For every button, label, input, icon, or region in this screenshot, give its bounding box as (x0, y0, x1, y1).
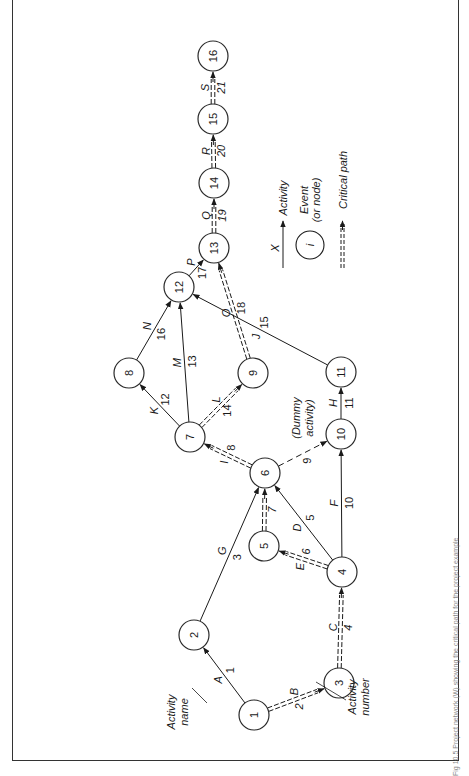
event-node-11: 11 (326, 357, 356, 387)
svg-text:(Dummy: (Dummy (290, 396, 302, 439)
event-number: 6 (259, 470, 271, 476)
activity-number-label: 14 (221, 404, 233, 416)
event-node-9: 9 (238, 358, 268, 388)
event-number: 5 (258, 543, 270, 549)
svg-text:number: number (359, 677, 371, 716)
activity-name-label: F (328, 498, 340, 506)
dummy-activity-annotation: (Dummy activity) (290, 396, 315, 439)
event-node-5: 5 (249, 531, 279, 561)
activity-name-label: J (250, 333, 262, 340)
event-node-15: 15 (198, 104, 228, 134)
activity-name-label: K (148, 406, 160, 414)
svg-text:name: name (178, 698, 190, 726)
legend-activity: X Activity (269, 179, 289, 268)
activity-number-label: 3 (231, 554, 243, 560)
event-number: 11 (335, 366, 347, 377)
event-node-1: 1 (239, 700, 269, 730)
event-nodes: 12345678910111213141516 (114, 41, 357, 730)
activity-name-label: R (200, 147, 212, 155)
activity-A (204, 648, 245, 703)
activity-name-annotation: Activity name (165, 688, 207, 730)
activity-G (200, 488, 259, 622)
activity-number-label: 19 (216, 209, 228, 221)
event-node-13: 13 (199, 233, 229, 263)
activity-name-label: C (327, 623, 339, 631)
event-number: 16 (207, 50, 219, 62)
event-node-4: 4 (327, 557, 357, 587)
activity-number-label: 1 (224, 667, 236, 673)
figure-caption: Fig 10.5 Project network (W) showing the… (452, 538, 459, 776)
activity-number-label: 9 (301, 458, 313, 464)
activity-name-label: P (185, 258, 197, 266)
activity-number-label: 16 (155, 328, 167, 340)
svg-text:(or node): (or node) (310, 177, 322, 222)
activity-number-label: 12 (159, 393, 171, 405)
svg-text:X: X (269, 244, 281, 253)
legend-event: i Event (or node) (296, 177, 324, 259)
activity-number-label: 20 (215, 144, 227, 158)
event-node-6: 6 (250, 458, 280, 488)
activity-name-label: B (288, 688, 300, 695)
event-number: 13 (208, 242, 220, 254)
svg-text:Activity: Activity (165, 693, 177, 730)
activity-name-label: O (220, 308, 232, 317)
activity-name-label: A (212, 676, 224, 684)
activity-name-label: M (171, 357, 183, 367)
svg-text:Activity: Activity (346, 678, 358, 715)
activity-F (341, 450, 342, 557)
event-number: 15 (207, 113, 219, 125)
event-node-8: 8 (114, 358, 144, 388)
event-node-16: 16 (198, 41, 228, 71)
event-node-7: 7 (175, 422, 205, 452)
event-number: 7 (184, 434, 196, 440)
project-network-diagram: 12345678910111213141516 A1B2C4G3E6D57F10… (0, 0, 469, 776)
svg-text:Event: Event (298, 185, 310, 214)
activity-J (193, 294, 328, 365)
event-number: 8 (123, 370, 135, 376)
activity-number-label: 18 (235, 302, 247, 314)
activity-number-label: 11 (343, 397, 355, 408)
activity-name-label: H (327, 399, 339, 407)
event-node-14: 14 (199, 168, 229, 198)
event-node-12: 12 (164, 272, 194, 302)
event-number: 1 (248, 712, 260, 718)
event-number: 9 (247, 370, 259, 376)
activity-number-label: 8 (225, 445, 237, 451)
activity-number-label: 17 (196, 267, 208, 279)
event-node-2: 2 (179, 620, 209, 650)
activity-number-label: 10 (343, 497, 355, 509)
activity-number-label: 6 (300, 547, 312, 554)
legend-critical-path: Critical path (337, 151, 349, 268)
svg-text:Activity: Activity (277, 179, 289, 216)
activity-name-label: D (291, 523, 303, 531)
activity-name-label: E (294, 562, 306, 570)
activity-name-label: N (141, 322, 153, 330)
event-number: 3 (333, 680, 345, 686)
activity-number-label: 15 (258, 316, 270, 328)
event-node-10: 10 (326, 419, 356, 449)
event-number: 10 (335, 428, 347, 440)
activity-arrows (137, 72, 344, 711)
event-number: 4 (336, 569, 348, 575)
activity-number-label: 21 (215, 81, 227, 94)
activity-name-label: S (199, 83, 211, 91)
svg-text:Critical path: Critical path (337, 151, 349, 209)
event-number: 2 (188, 632, 200, 638)
activity-name-label: G (216, 546, 228, 555)
activity-number-label: 7 (266, 506, 278, 513)
legend: X Activity i Event (or node) Critical pa… (269, 151, 349, 268)
activity-name-label: I (218, 461, 230, 464)
activity-number-label: 5 (304, 515, 316, 521)
activity-number-label: 13 (186, 355, 198, 367)
svg-text:activity): activity) (303, 399, 315, 437)
event-number: 12 (173, 281, 185, 293)
activity-labels: A1B2C4G3E6D57F10I89H11K12M13L14J15N16P17… (141, 81, 355, 710)
activity-name-label: Q (200, 211, 212, 220)
activity-name-label: L (210, 396, 222, 402)
activity-number-label: 4 (342, 625, 354, 631)
activity-number-label: 2 (293, 703, 305, 710)
event-number: 14 (208, 177, 220, 189)
